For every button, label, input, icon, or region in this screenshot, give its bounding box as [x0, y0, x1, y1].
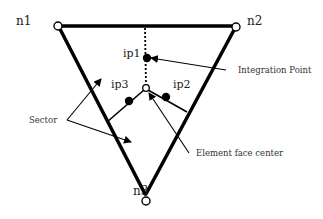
face-center-label: Element face center: [196, 149, 283, 158]
element-face-diagram: [0, 0, 323, 219]
ip1-point: [143, 54, 151, 62]
node-label-n1: n1: [16, 15, 31, 27]
sector-line-left: [107, 90, 144, 122]
edge-n2-n3: [146, 30, 234, 194]
integration-point-label: Integration Point: [238, 66, 311, 75]
triangle-edges: [60, 26, 234, 194]
face-center-point: [143, 85, 150, 92]
node-label-n3: n3: [133, 185, 148, 197]
ip-label-ip2: ip2: [173, 79, 191, 90]
ip3-point: [125, 97, 133, 105]
node-n3: [142, 197, 150, 205]
node-n1: [54, 22, 62, 30]
ip2-point: [162, 93, 170, 101]
ip-label-ip1: ip1: [123, 48, 141, 59]
node-n2: [232, 23, 240, 31]
sector-arrow-lower: [67, 120, 131, 142]
ip-label-ip3: ip3: [111, 79, 129, 90]
sector-label: Sector: [29, 116, 57, 125]
node-label-n2: n2: [247, 15, 262, 27]
